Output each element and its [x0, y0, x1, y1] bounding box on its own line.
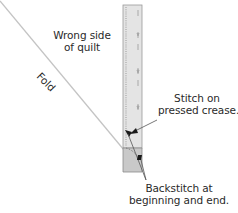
- wrong-side-label: Wrong side of quilt: [50, 29, 114, 53]
- backstitch-label-line1: Backstitch at: [120, 182, 238, 194]
- stitch-label-line2: pressed crease.: [158, 104, 236, 116]
- backstitch-label-line2: beginning and end.: [120, 194, 238, 206]
- stitch-label-line1: Stitch on: [158, 92, 236, 104]
- fold-line: [0, 1, 124, 150]
- stitch-label: Stitch on pressed crease.: [158, 92, 236, 116]
- backstitch-label: Backstitch at beginning and end.: [120, 182, 238, 206]
- wrong-side-label-line1: Wrong side: [50, 29, 114, 41]
- binding-diagram: Wrong side of quilt Fold Stitch on press…: [0, 0, 238, 213]
- wrong-side-label-line2: of quilt: [50, 41, 114, 53]
